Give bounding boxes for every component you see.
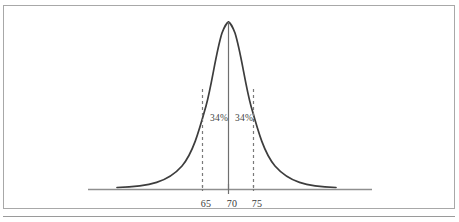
x-tick-label-75: 75	[248, 198, 266, 209]
figure-frame: 34% 34% 65 70 75	[3, 5, 455, 209]
bell-curve-figure	[0, 0, 459, 222]
x-tick-label-65: 65	[197, 198, 215, 209]
page-divider-rule	[3, 216, 455, 217]
x-tick-label-70: 70	[223, 198, 241, 209]
figure-page: 34% 34% 65 70 75	[0, 0, 459, 222]
percent-label-right: 34%	[235, 113, 253, 123]
percent-label-left: 34%	[210, 113, 228, 123]
normal-curve-path	[117, 22, 336, 188]
